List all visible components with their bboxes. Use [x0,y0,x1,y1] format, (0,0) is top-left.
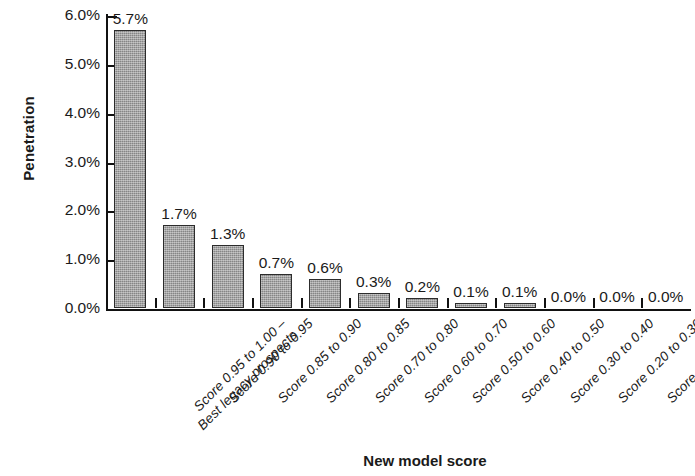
category-label-line-1: Score 0.30 to 0.40 [567,316,657,406]
bar-value-label: 1.7% [161,205,196,222]
x-axis-tick-mark [447,298,449,308]
x-axis-tick-mark [495,298,497,308]
category-label-line-1: Score 0.80 to 0.85 [323,316,413,406]
bar-value-label: 5.7% [113,10,148,27]
x-axis-title: New model score [300,452,550,469]
bar-slot[interactable]: 0.7% [260,274,292,308]
category-label-line-1: Score 0.50 to 0.60 [469,316,559,406]
x-axis-category-label: Score 0.60 to 0.70 [421,316,511,406]
bar[interactable]: 1.3% [212,245,244,308]
bar-slot[interactable]: 0.3% [358,293,390,308]
bar[interactable]: 5.7% [114,30,146,308]
x-axis-category-label: Score 0.80 to 0.85 [323,316,413,406]
bar-value-label: 1.3% [210,225,245,242]
bar-value-label: 0.1% [453,283,488,300]
bar-slot[interactable]: 1.7% [163,225,195,308]
bar[interactable]: 1.7% [163,225,195,308]
bar-value-label: 0.7% [259,254,294,271]
bar-value-label: 0.3% [356,273,391,290]
x-axis-tick-mark [641,298,643,308]
category-label-line-1: Score 0.60 to 0.70 [421,316,511,406]
bar[interactable]: 0.7% [260,274,292,308]
x-axis-tick-mark [398,298,400,308]
x-axis-category-label: Score 0.50 to 0.60 [469,316,559,406]
bar[interactable]: 0.3% [358,293,390,308]
y-axis-tick-label: 1.0% [40,251,100,267]
x-axis-category-label: Score 0.40 to 0.50 [518,316,608,406]
plot-area: 5.7%1.7%1.3%0.7%0.6%0.3%0.2%0.1%0.1%0.0%… [106,15,690,310]
y-axis-tick-label: 6.0% [40,7,100,23]
category-label-line-1: Score 0.70 to 0.80 [372,316,462,406]
x-axis-tick-mark [155,298,157,308]
bar-slot[interactable]: 5.7% [114,30,146,308]
x-axis-category-label: Score 0.95 to 1.00 –Best legacy prospect… [184,316,301,433]
bar-slot[interactable]: 0.6% [309,279,341,308]
bar[interactable]: 0.1% [455,303,487,308]
bar[interactable]: 0.6% [309,279,341,308]
bar-value-label: 0.0% [648,288,683,305]
x-axis-tick-mark [301,298,303,308]
x-axis-tick-mark [544,298,546,308]
bar-value-label: 0.2% [405,278,440,295]
x-axis-category-labels: Score 0.95 to 1.00 –Best legacy prospect… [106,312,695,452]
x-axis-tick-mark [203,298,205,308]
bar-value-label: 0.0% [551,288,586,305]
y-axis-tick-label: 3.0% [40,154,100,170]
y-axis-tick-label: 5.0% [40,56,100,72]
bar-slot[interactable]: 0.1% [504,303,536,308]
x-axis-category-label: Score 0.30 to 0.40 [567,316,657,406]
bar[interactable]: 0.2% [406,298,438,308]
y-axis-tick-label: 4.0% [40,105,100,121]
bar-value-label: 0.1% [502,283,537,300]
x-axis-category-label: Score 0.70 to 0.80 [372,316,462,406]
category-label-line-1: Score 0.40 to 0.50 [518,316,608,406]
y-axis-tick-label: 0.0% [40,300,100,316]
bar-slot[interactable]: 0.2% [406,298,438,308]
bar-chart: Penetration 0.0%1.0%2.0%3.0%4.0%5.0%6.0%… [0,0,695,476]
x-axis-line [106,309,691,311]
bar[interactable]: 0.1% [504,303,536,308]
y-axis-title: Penetration [20,59,37,219]
x-axis-tick-mark [252,298,254,308]
x-axis-tick-mark [593,298,595,308]
y-axis-tick-labels: 0.0%1.0%2.0%3.0%4.0%5.0%6.0% [38,0,100,476]
bar-slot[interactable]: 0.1% [455,303,487,308]
bar-value-label: 0.0% [599,288,634,305]
x-axis-tick-mark [349,298,351,308]
bar-value-label: 0.6% [307,259,342,276]
y-axis-tick-label: 2.0% [40,202,100,218]
bar-slot[interactable]: 1.3% [212,245,244,308]
